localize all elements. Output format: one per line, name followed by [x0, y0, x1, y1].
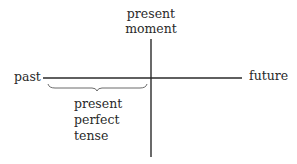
ppt-line3: tense — [74, 128, 122, 144]
present-perfect-tense-label: present perfect tense — [74, 96, 122, 144]
present-moment-line1: present — [118, 6, 184, 21]
present-moment-label: present moment — [118, 6, 184, 36]
present-moment-line2: moment — [118, 21, 184, 36]
past-label: past — [14, 69, 41, 84]
present-perfect-brace — [48, 84, 147, 91]
future-label: future — [249, 68, 288, 83]
ppt-line1: present — [74, 96, 122, 112]
ppt-line2: perfect — [74, 112, 122, 128]
